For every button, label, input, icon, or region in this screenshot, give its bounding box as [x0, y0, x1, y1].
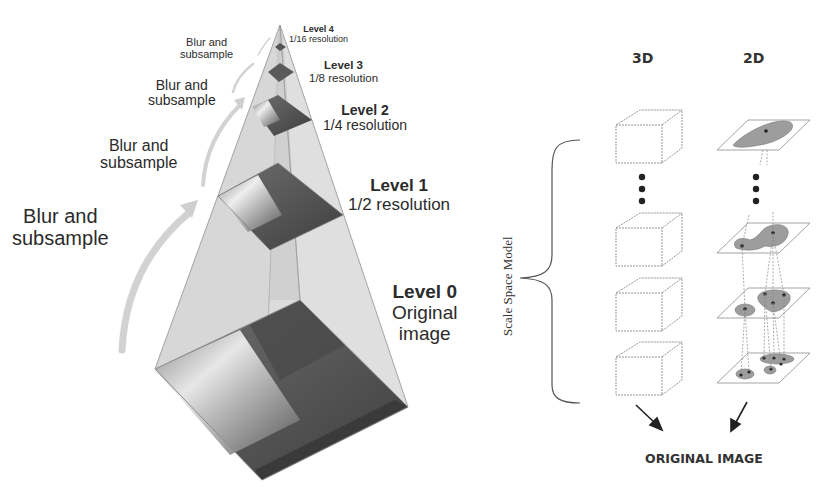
blur-label-3: Blur and subsample: [148, 78, 216, 108]
blur-label-1: Blur and subsample: [12, 206, 109, 249]
diagram-canvas: [0, 0, 833, 499]
level-1-label: Level 1 1/2 resolution: [348, 177, 450, 214]
level-3-label: Level 3 1/8 resolution: [309, 59, 378, 84]
planes-2d-column: [717, 120, 810, 383]
column-header-3d: 3D: [632, 50, 653, 66]
plane-2d: [717, 353, 810, 383]
level-2-label: Level 2 1/4 resolution: [323, 103, 407, 134]
scale-space-model-label: Scale Space Model: [500, 236, 516, 336]
level-0-name: Level 0: [392, 282, 457, 303]
level-4-label: Level 4 1/16 resolution: [289, 25, 348, 45]
level-0-label: Level 0 Original image: [392, 282, 457, 345]
ellipsis-2d: [753, 174, 759, 204]
blur-arrow-icon: [233, 64, 253, 92]
cubes-3d-column: [616, 110, 682, 395]
blur-label-4: Blur and subsample: [180, 37, 233, 61]
cube-icon: [616, 110, 682, 163]
cube-icon: [616, 213, 682, 266]
plane-2d: [717, 120, 810, 150]
arrow-down-left-icon: [735, 402, 747, 424]
cube-icon: [616, 278, 682, 331]
blur-label-2: Blur and subsample: [100, 137, 177, 172]
column-header-2d: 2D: [743, 50, 764, 66]
scale-links: [741, 150, 784, 375]
blur-arrow-icon: [258, 38, 270, 55]
ellipsis-3d: [639, 174, 645, 204]
plane-2d: [717, 288, 810, 318]
scale-space-brace: [520, 140, 580, 403]
arrows-to-original: [636, 402, 747, 431]
cube-icon: [616, 342, 682, 395]
plane-2d: [717, 223, 810, 253]
original-image-caption: ORIGINAL IMAGE: [645, 451, 763, 466]
